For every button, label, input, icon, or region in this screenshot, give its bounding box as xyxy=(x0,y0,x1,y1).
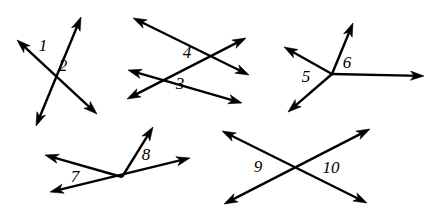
angle-label-3: 3 xyxy=(176,75,185,92)
angle-label-2: 2 xyxy=(59,57,68,74)
ray-down-left xyxy=(291,74,332,109)
ray-right xyxy=(332,74,420,76)
angle-label-4: 4 xyxy=(183,44,192,61)
angle-label-1: 1 xyxy=(39,37,48,54)
angle-label-5: 5 xyxy=(302,68,311,85)
group-angles-7-8 xyxy=(45,127,190,193)
angle-label-8: 8 xyxy=(142,146,151,163)
ray-up-left xyxy=(49,156,122,177)
angle-label-7: 7 xyxy=(71,168,80,185)
group-angles-1-2 xyxy=(17,17,97,126)
arrowhead xyxy=(284,47,298,58)
angle-label-9: 9 xyxy=(254,158,263,175)
segment-nw-se xyxy=(20,43,94,112)
group-angles-9-10 xyxy=(222,129,370,204)
angle-figure-svg xyxy=(0,0,435,216)
angle-label-6: 6 xyxy=(343,54,352,71)
angle-label-10: 10 xyxy=(323,159,340,176)
segment-lower-nw-se xyxy=(132,71,238,102)
angle-figure-canvas: 12435678910 xyxy=(0,0,435,216)
arrowhead xyxy=(142,127,153,141)
